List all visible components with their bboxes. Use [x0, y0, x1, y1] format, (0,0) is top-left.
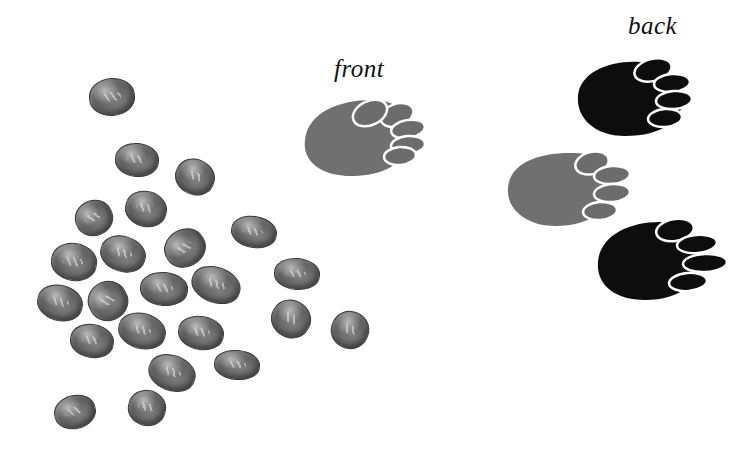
back-paw-print-icon: [598, 216, 728, 300]
front-paw-print-icon: [305, 95, 427, 177]
back-paw-print-icon: [578, 54, 693, 136]
paw-prints: [0, 0, 754, 455]
front-paw-print-icon: [508, 148, 631, 226]
illustration-scene: front back: [0, 0, 754, 455]
